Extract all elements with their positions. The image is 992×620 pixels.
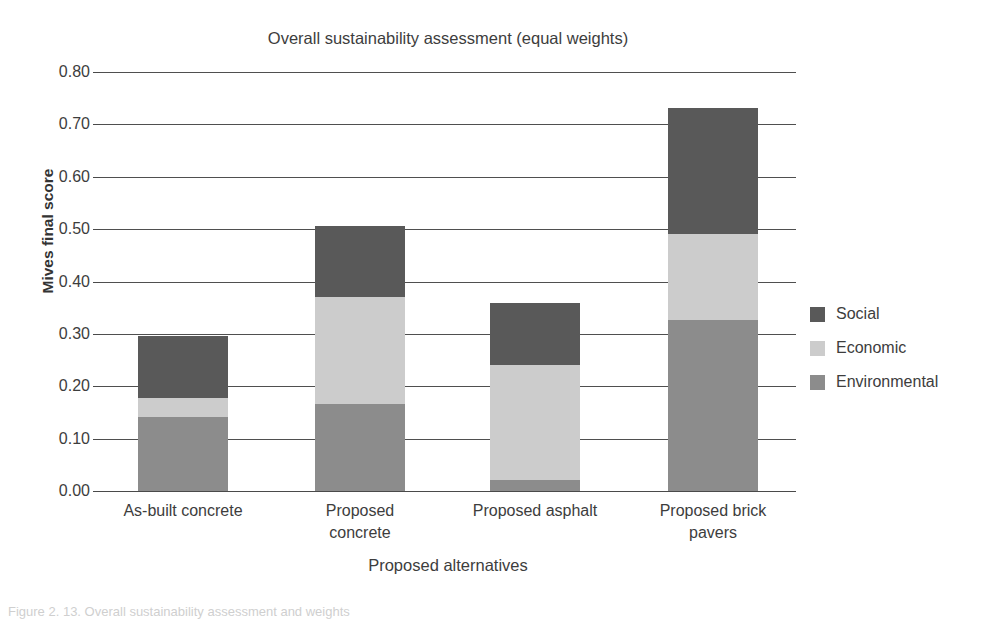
legend-item[interactable]: Environmental bbox=[810, 365, 938, 399]
bar-segment-economic[interactable] bbox=[668, 234, 758, 320]
bar-segment-economic[interactable] bbox=[490, 365, 580, 480]
y-axis-tick-label: 0.40 bbox=[34, 274, 90, 290]
y-axis-tick-label: 0.70 bbox=[34, 116, 90, 132]
legend-item[interactable]: Social bbox=[810, 297, 938, 331]
legend: SocialEconomicEnvironmental bbox=[810, 297, 938, 399]
legend-item[interactable]: Economic bbox=[810, 331, 938, 365]
gridline bbox=[100, 72, 796, 73]
y-axis-tick-label: 0.60 bbox=[34, 169, 90, 185]
y-axis-tick-label: 0.30 bbox=[34, 326, 90, 342]
x-axis-line bbox=[100, 491, 796, 492]
bar-segment-environmental[interactable] bbox=[668, 320, 758, 491]
x-axis-tick-label: Proposedconcrete bbox=[274, 500, 446, 544]
legend-item-label: Social bbox=[836, 305, 880, 323]
plot-area bbox=[100, 72, 796, 491]
bar-segment-social[interactable] bbox=[315, 226, 405, 297]
x-axis-tick-label: As-built concrete bbox=[97, 500, 269, 522]
bar-segment-social[interactable] bbox=[668, 108, 758, 234]
legend-swatch-icon bbox=[810, 341, 825, 356]
bar-segment-economic[interactable] bbox=[315, 297, 405, 404]
x-axis-tick-label: Proposed brickpavers bbox=[627, 500, 799, 544]
legend-item-label: Economic bbox=[836, 339, 906, 357]
legend-swatch-icon bbox=[810, 375, 825, 390]
bar-segment-environmental[interactable] bbox=[138, 417, 228, 491]
y-axis-tick-label: 0.10 bbox=[34, 431, 90, 447]
bar-segment-social[interactable] bbox=[138, 336, 228, 398]
figure-caption: Figure 2. 13. Overall sustainability ass… bbox=[8, 604, 708, 620]
bar-stack[interactable] bbox=[138, 336, 228, 491]
bar-stack[interactable] bbox=[668, 108, 758, 491]
bar-stack[interactable] bbox=[490, 303, 580, 491]
y-axis-tick-label: 0.00 bbox=[34, 483, 90, 499]
legend-item-label: Environmental bbox=[836, 373, 938, 391]
y-axis-tick-label: 0.80 bbox=[34, 64, 90, 80]
legend-swatch-icon bbox=[810, 307, 825, 322]
y-axis-tick-label: 0.50 bbox=[34, 221, 90, 237]
x-axis-tick-label: Proposed asphalt bbox=[449, 500, 621, 522]
chart-title: Overall sustainability assessment (equal… bbox=[100, 28, 796, 48]
y-axis-tick-label: 0.20 bbox=[34, 378, 90, 394]
bar-segment-environmental[interactable] bbox=[315, 404, 405, 491]
x-axis-title: Proposed alternatives bbox=[100, 556, 796, 575]
bar-segment-environmental[interactable] bbox=[490, 480, 580, 491]
bar-segment-social[interactable] bbox=[490, 303, 580, 365]
bar-stack[interactable] bbox=[315, 226, 405, 491]
bar-segment-economic[interactable] bbox=[138, 398, 228, 417]
